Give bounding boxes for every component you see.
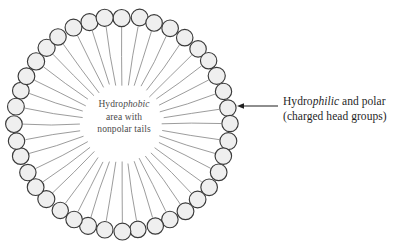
lipid-tail — [139, 158, 166, 211]
polar-head-group-circle — [177, 203, 194, 220]
polar-head-group-circle — [96, 9, 113, 26]
polar-head-group-circle — [113, 10, 130, 27]
polar-head-group-circle — [208, 67, 225, 84]
polar-head-group-circle — [200, 53, 216, 69]
lipid-tail — [141, 36, 166, 86]
lipid-tail — [134, 32, 151, 86]
lipid-tail — [159, 142, 211, 168]
polar-head-group-circle — [27, 179, 44, 196]
lipid-tail — [106, 27, 116, 86]
center-label-line-3: nonpolar tails — [62, 123, 186, 136]
polar-head-group-circle — [50, 29, 66, 45]
polar-head-group-circle — [215, 83, 231, 99]
lipid-tail — [128, 26, 138, 85]
polar-head-group-circle — [210, 164, 227, 181]
lipid-tail — [29, 136, 83, 153]
polar-head-group-circle — [6, 116, 23, 133]
lipid-tail — [159, 136, 214, 154]
polar-head-group-circle — [220, 133, 237, 150]
lipid-tail — [156, 66, 201, 99]
lipid-tail — [134, 161, 152, 217]
side-label-line-2: (charged head groups) — [283, 109, 408, 124]
hydrophilic-side-label: Hydrophilic and polar (charged head grou… — [283, 94, 408, 123]
side-label-italic-philic: philic — [313, 95, 340, 107]
lipid-tail — [92, 31, 109, 85]
center-label-line-1: Hydrophobic — [62, 98, 186, 111]
center-label-italic-phobic: phobic — [123, 99, 149, 109]
hydrophobic-center-label: Hydrophobic area with nonpolar tails — [62, 98, 186, 136]
lipid-tail — [128, 164, 137, 221]
lipid-tail — [149, 55, 191, 97]
center-label-line-2: area with — [62, 111, 186, 124]
lipid-tail — [43, 147, 90, 181]
arrow-head-icon — [237, 103, 244, 109]
polar-head-group-circle — [215, 148, 232, 165]
polar-head-group-circle — [20, 164, 36, 180]
lipid-tail — [151, 153, 191, 193]
polar-head-group-circle — [162, 211, 178, 227]
polar-head-group-circle — [81, 14, 98, 31]
lipid-tail — [106, 162, 116, 221]
polar-head-group-circle — [222, 115, 238, 131]
polar-head-group-circle — [65, 19, 82, 36]
polar-head-group-circle — [176, 29, 192, 45]
polar-head-group-circle — [162, 20, 179, 37]
polar-head-group-circle — [18, 68, 35, 85]
polar-head-group-circle — [12, 148, 29, 165]
pointer-arrow — [237, 103, 278, 109]
polar-head-group-circle — [146, 15, 163, 32]
polar-head-group-circle — [8, 133, 24, 149]
polar-head-group-circle — [52, 202, 68, 218]
polar-head-group-circle — [8, 98, 25, 115]
polar-head-group-circle — [220, 100, 236, 116]
polar-head-group-circle — [130, 221, 147, 238]
polar-head-group-circle — [97, 222, 113, 238]
lipid-tail — [91, 162, 110, 218]
polar-head-group-circle — [114, 223, 131, 240]
lipid-tail — [78, 36, 104, 88]
side-label-line-1: Hydrophilic and polar — [283, 94, 408, 109]
polar-head-group-circle — [147, 218, 163, 234]
